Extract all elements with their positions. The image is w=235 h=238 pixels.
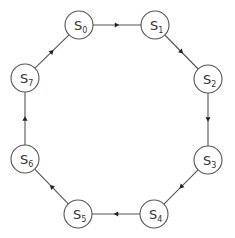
- edges-layer: [22, 22, 210, 216]
- state-node-s1: S1: [141, 11, 169, 39]
- arrowhead-icon: [114, 211, 119, 216]
- state-node-s6: S6: [11, 145, 39, 173]
- state-node-s5: S5: [64, 200, 92, 228]
- state-node-s2: S2: [194, 65, 222, 93]
- state-node-s0: S0: [65, 11, 93, 39]
- nodes-layer: S0S1S2S3S4S5S6S7: [11, 11, 222, 228]
- state-cycle-diagram: S0S1S2S3S4S5S6S7: [0, 0, 235, 238]
- state-node-s4: S4: [140, 200, 168, 228]
- arrowhead-icon: [205, 117, 210, 122]
- state-node-s7: S7: [11, 64, 39, 92]
- state-node-s3: S3: [194, 146, 222, 174]
- arrowhead-icon: [22, 116, 27, 121]
- arrowhead-icon: [115, 22, 120, 27]
